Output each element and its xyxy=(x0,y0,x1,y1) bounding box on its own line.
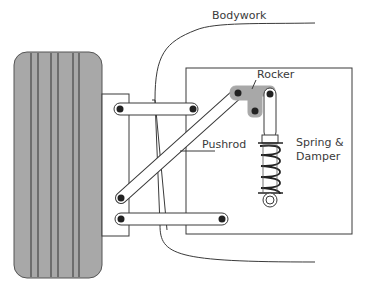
tire xyxy=(14,52,102,278)
lower-wishbone xyxy=(115,213,228,225)
label-rocker: Rocker xyxy=(257,69,294,81)
upper-wishbone xyxy=(114,103,198,115)
label-pushrod: Pushrod xyxy=(202,139,246,151)
label-bodywork: Bodywork xyxy=(212,10,266,22)
label-spring-line1: Spring & xyxy=(296,137,344,149)
label-spring-line2: Damper xyxy=(296,151,340,163)
